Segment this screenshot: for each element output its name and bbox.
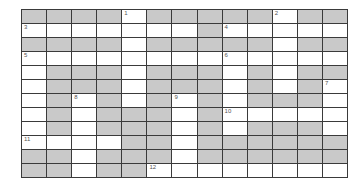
- open-cell[interactable]: [172, 108, 196, 121]
- open-cell[interactable]: [97, 136, 121, 149]
- open-cell[interactable]: [22, 66, 46, 79]
- open-cell[interactable]: [72, 150, 96, 163]
- open-cell[interactable]: [72, 136, 96, 149]
- open-cell[interactable]: [172, 52, 196, 65]
- block-cell: [147, 80, 171, 93]
- open-cell[interactable]: 11: [22, 136, 46, 149]
- open-cell[interactable]: [248, 164, 272, 177]
- block-cell: [72, 38, 96, 51]
- open-cell[interactable]: [298, 52, 322, 65]
- block-cell: [198, 66, 222, 79]
- open-cell[interactable]: 8: [72, 94, 96, 107]
- open-cell[interactable]: [273, 66, 297, 79]
- open-cell[interactable]: [72, 24, 96, 37]
- block-cell: [323, 38, 347, 51]
- block-cell: [273, 150, 297, 163]
- open-cell[interactable]: [172, 24, 196, 37]
- open-cell[interactable]: [147, 52, 171, 65]
- open-cell[interactable]: [273, 38, 297, 51]
- open-cell[interactable]: [273, 80, 297, 93]
- open-cell[interactable]: [273, 164, 297, 177]
- block-cell: [298, 94, 322, 107]
- block-cell: [47, 66, 71, 79]
- open-cell[interactable]: [122, 94, 146, 107]
- open-cell[interactable]: [22, 108, 46, 121]
- open-cell[interactable]: 3: [22, 24, 46, 37]
- open-cell[interactable]: 6: [223, 52, 247, 65]
- open-cell[interactable]: [273, 24, 297, 37]
- block-cell: [273, 136, 297, 149]
- open-cell[interactable]: [223, 94, 247, 107]
- open-cell[interactable]: [172, 150, 196, 163]
- open-cell[interactable]: [223, 66, 247, 79]
- open-cell[interactable]: 12: [147, 164, 171, 177]
- open-cell[interactable]: [323, 24, 347, 37]
- open-cell[interactable]: [323, 164, 347, 177]
- open-cell[interactable]: [323, 122, 347, 135]
- block-cell: [97, 94, 121, 107]
- open-cell[interactable]: 10: [223, 108, 247, 121]
- open-cell[interactable]: [323, 94, 347, 107]
- open-cell[interactable]: [273, 108, 297, 121]
- open-cell[interactable]: [248, 52, 272, 65]
- open-cell[interactable]: [72, 108, 96, 121]
- block-cell: [97, 38, 121, 51]
- open-cell[interactable]: [22, 94, 46, 107]
- open-cell[interactable]: [323, 52, 347, 65]
- open-cell[interactable]: [47, 136, 71, 149]
- block-cell: [198, 80, 222, 93]
- open-cell[interactable]: [298, 108, 322, 121]
- open-cell[interactable]: [298, 164, 322, 177]
- block-cell: [22, 38, 46, 51]
- block-cell: [298, 10, 322, 23]
- clue-number: 8: [74, 94, 77, 101]
- open-cell[interactable]: [198, 52, 222, 65]
- open-cell[interactable]: [273, 52, 297, 65]
- open-cell[interactable]: [122, 52, 146, 65]
- open-cell[interactable]: [223, 164, 247, 177]
- clue-number: 11: [24, 136, 30, 143]
- open-cell[interactable]: 4: [223, 24, 247, 37]
- block-cell: [47, 150, 71, 163]
- open-cell[interactable]: [298, 24, 322, 37]
- open-cell[interactable]: 7: [323, 80, 347, 93]
- open-cell[interactable]: 5: [22, 52, 46, 65]
- block-cell: [172, 66, 196, 79]
- open-cell[interactable]: [172, 164, 196, 177]
- block-cell: [248, 10, 272, 23]
- open-cell[interactable]: 9: [172, 94, 196, 107]
- block-cell: [298, 136, 322, 149]
- open-cell[interactable]: [22, 80, 46, 93]
- open-cell[interactable]: [122, 24, 146, 37]
- open-cell[interactable]: 1: [122, 10, 146, 23]
- open-cell[interactable]: [248, 24, 272, 37]
- block-cell: [22, 164, 46, 177]
- open-cell[interactable]: [122, 38, 146, 51]
- block-cell: [147, 122, 171, 135]
- open-cell[interactable]: [323, 108, 347, 121]
- open-cell[interactable]: [172, 122, 196, 135]
- clue-number: 5: [24, 52, 27, 59]
- open-cell[interactable]: [97, 52, 121, 65]
- clue-number: 2: [275, 10, 278, 17]
- open-cell[interactable]: [223, 80, 247, 93]
- block-cell: [47, 80, 71, 93]
- open-cell[interactable]: [47, 24, 71, 37]
- open-cell[interactable]: [147, 24, 171, 37]
- open-cell[interactable]: 2: [273, 10, 297, 23]
- open-cell[interactable]: [223, 122, 247, 135]
- open-cell[interactable]: [72, 122, 96, 135]
- open-cell[interactable]: [47, 52, 71, 65]
- block-cell: [147, 38, 171, 51]
- open-cell[interactable]: [22, 122, 46, 135]
- open-cell[interactable]: [97, 24, 121, 37]
- open-cell[interactable]: [72, 164, 96, 177]
- open-cell[interactable]: [172, 136, 196, 149]
- open-cell[interactable]: [248, 108, 272, 121]
- open-cell[interactable]: [122, 66, 146, 79]
- block-cell: [273, 122, 297, 135]
- open-cell[interactable]: [72, 52, 96, 65]
- open-cell[interactable]: [122, 80, 146, 93]
- block-cell: [97, 10, 121, 23]
- open-cell[interactable]: [198, 164, 222, 177]
